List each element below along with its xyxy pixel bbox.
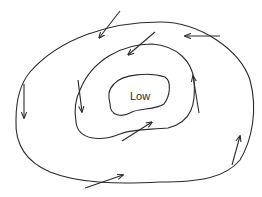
wind-arrow-icon: [78, 80, 82, 112]
isobar-lines: [16, 22, 254, 183]
low-label: Low: [130, 90, 150, 102]
wind-arrow-icon: [99, 11, 120, 38]
